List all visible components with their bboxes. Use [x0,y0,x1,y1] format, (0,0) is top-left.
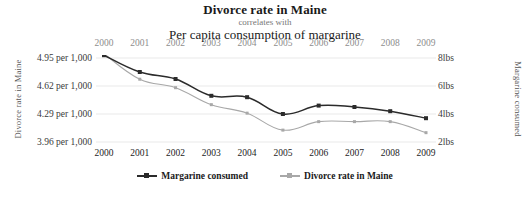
left-axis-tick-label: 3.96 per 1,000 [37,137,92,147]
data-point-marker [102,55,106,57]
plot-lines [96,55,436,147]
x-axis-ticks-top: 2000200120022003200420052006200720082009 [96,38,436,50]
x-axis-tick-label-top: 2005 [273,38,292,49]
series-line [104,55,426,133]
x-axis-tick-label-top: 2002 [166,38,185,49]
x-axis-tick-label-bottom: 2000 [95,148,114,159]
data-point-marker [174,86,177,89]
right-axis-tick-label: 2lbs [438,137,454,147]
data-point-marker [352,105,356,109]
legend-item[interactable]: Divorce rate in Maine [280,170,393,181]
x-axis-tick-label-top: 2006 [309,38,328,49]
left-axis-tick-label: 4.95 per 1,000 [37,53,92,63]
left-axis-tick-label: 4.29 per 1,000 [37,109,92,119]
data-point-marker [209,94,213,98]
series-svg [96,55,436,147]
data-point-marker [210,103,213,106]
legend-marker-icon [280,172,300,180]
x-axis-tick-label-bottom: 2006 [309,148,328,159]
x-axis-tick-label-bottom: 2009 [417,148,436,159]
x-axis-tick-label-bottom: 2008 [381,148,400,159]
x-axis-tick-label-bottom: 2001 [130,148,149,159]
right-axis-tick-label: 6lbs [438,81,454,91]
data-point-marker [317,104,321,108]
right-axis-title: Margarine consumed [513,61,523,136]
data-point-marker [281,129,284,132]
data-point-marker [353,120,356,123]
x-axis-tick-label-top: 2003 [202,38,221,49]
x-axis-tick-label-top: 2000 [95,38,114,49]
x-axis-tick-label-top: 2001 [130,38,149,49]
title-connector: correlates with [0,17,530,27]
x-axis-tick-label-bottom: 2004 [238,148,257,159]
title-primary: Divorce rate in Maine [0,0,530,17]
chart-title-block: Divorce rate in Maine correlates with Pe… [0,0,530,42]
x-axis-tick-label-bottom: 2002 [166,148,185,159]
data-point-marker [245,95,249,99]
right-axis-tick-label: 4lbs [438,109,454,119]
chart-legend: Margarine consumedDivorce rate in Maine [0,170,530,181]
data-point-marker [281,112,285,116]
data-point-marker [246,112,249,115]
data-point-marker [317,120,320,123]
x-axis-tick-label-top: 2009 [417,38,436,49]
data-point-marker [425,131,428,134]
data-point-marker [389,120,392,123]
x-axis-tick-label-bottom: 2005 [273,148,292,159]
chart-area: Divorce rate in Maine Margarine consumed… [0,38,530,163]
data-point-marker [174,77,178,81]
x-axis-tick-label-top: 2007 [345,38,364,49]
x-axis-tick-label-top: 2008 [381,38,400,49]
data-point-marker [138,78,141,81]
legend-item[interactable]: Margarine consumed [137,170,248,181]
legend-item-label: Margarine consumed [161,171,248,181]
series-line [104,55,426,118]
x-axis-tick-label-top: 2004 [238,38,257,49]
data-point-marker [138,70,142,74]
right-axis-ticks: 8lbs6lbs4lbs2lbs [438,38,494,163]
x-axis-tick-label-bottom: 2003 [202,148,221,159]
data-point-marker [424,116,428,120]
right-axis-tick-label: 8lbs [438,53,454,63]
x-axis-ticks-bottom: 2000200120022003200420052006200720082009 [96,148,436,160]
left-axis-tick-label: 4.62 per 1,000 [37,81,92,91]
legend-item-label: Divorce rate in Maine [304,171,393,181]
legend-marker-icon [137,172,157,180]
x-axis-tick-label-bottom: 2007 [345,148,364,159]
left-axis-ticks: 4.95 per 1,0004.62 per 1,0004.29 per 1,0… [14,38,92,163]
data-point-marker [388,109,392,113]
